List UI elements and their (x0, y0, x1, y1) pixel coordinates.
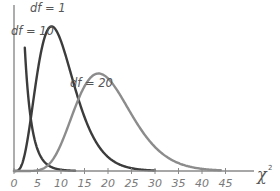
curves (14, 26, 221, 171)
tick-label: 0 (11, 177, 18, 190)
x-axis-title-superscript: 2 (268, 164, 272, 172)
tick-label: 20 (101, 177, 115, 190)
curve-label-df-1: df = 1 (30, 1, 66, 15)
tick-label: 5 (34, 177, 41, 190)
tick-label: 10 (54, 177, 68, 190)
tick-label: 35 (172, 177, 186, 190)
tick-label: 15 (78, 177, 92, 190)
curve-df-10 (14, 26, 155, 171)
curve-label-df-10: df = 10 (11, 24, 54, 38)
x-axis-title: χ (256, 165, 268, 184)
curve-df-20 (14, 74, 221, 172)
tick-label: 30 (148, 177, 162, 190)
chi-square-chart: 051015202530354045 df = 1df = 10df = 20 … (0, 0, 280, 191)
tick-label: 45 (219, 177, 233, 190)
tick-label: 40 (195, 177, 209, 190)
curve-label-df-20: df = 20 (70, 76, 113, 90)
tick-label: 25 (125, 177, 139, 190)
